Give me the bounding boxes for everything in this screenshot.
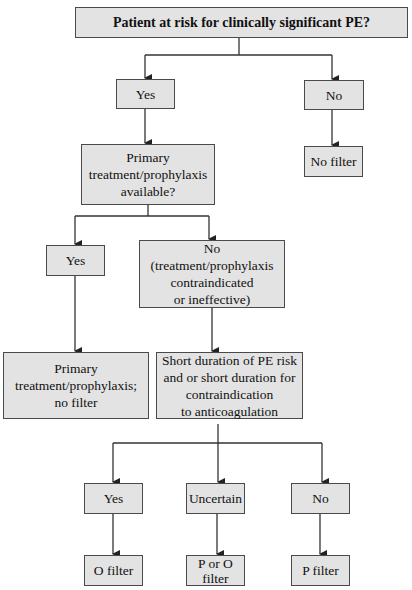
node-label: Patient at risk for clinically significa… — [113, 14, 370, 31]
node-label: P or O filter — [198, 556, 233, 586]
node-root-question: Patient at risk for clinically significa… — [75, 7, 408, 38]
node-yes-at-risk: Yes — [116, 79, 175, 109]
node-label: Primary treatment/prophylaxis; no filter — [15, 360, 137, 411]
node-no-short: No — [291, 483, 350, 514]
node-label: Yes — [66, 252, 86, 269]
node-no-at-risk: No — [304, 80, 364, 110]
node-label: Primary treatment/prophylaxis available? — [89, 149, 207, 200]
node-label: No filter — [310, 153, 356, 170]
node-o-filter: O filter — [84, 555, 143, 586]
node-label: No — [312, 490, 329, 507]
node-p-filter: P filter — [291, 555, 350, 586]
node-p-or-o-filter: P or O filter — [186, 555, 245, 586]
node-yes-primary: Yes — [46, 245, 105, 276]
node-label: Yes — [136, 86, 156, 103]
node-label: No (treatment/prophylaxis contraindicate… — [151, 240, 274, 308]
node-no-filter: No filter — [304, 146, 363, 177]
node-no-primary: No (treatment/prophylaxis contraindicate… — [139, 240, 285, 308]
node-primary-question: Primary treatment/prophylaxis available? — [81, 144, 215, 205]
node-label: P filter — [302, 562, 339, 579]
node-label: Yes — [104, 490, 124, 507]
node-short-duration-question: Short duration of PE risk and or short d… — [156, 352, 303, 419]
node-label: No — [326, 87, 343, 104]
node-yes-short: Yes — [84, 483, 143, 514]
node-label: Uncertain — [189, 490, 242, 507]
node-primary-result: Primary treatment/prophylaxis; no filter — [3, 352, 149, 419]
node-label: O filter — [94, 562, 133, 579]
node-label: Short duration of PE risk and or short d… — [162, 352, 297, 420]
node-uncertain: Uncertain — [186, 483, 245, 514]
